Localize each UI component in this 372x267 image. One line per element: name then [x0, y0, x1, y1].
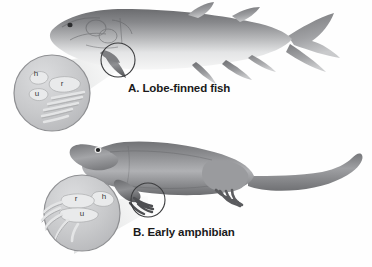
inset-a-label-radius: r — [61, 79, 64, 88]
inset-b-label-radius: r — [75, 194, 78, 203]
inset-b-label-ulna: u — [80, 209, 84, 218]
inset-a-label-ulna: u — [35, 89, 39, 98]
fish-eye — [67, 23, 72, 27]
fish-anal-fin — [248, 55, 276, 72]
amphibian-tail — [248, 154, 363, 191]
amphibian-pupil — [96, 148, 100, 152]
caption-lobe-finned-fish: A. Lobe-finned fish — [128, 82, 230, 94]
bone-humerus-a — [30, 72, 48, 85]
caption-early-amphibian: B. Early amphibian — [133, 226, 235, 238]
figure-container: h r u — [0, 0, 372, 267]
inset-b-label-humerus: h — [102, 192, 106, 201]
bone-radius-a — [49, 77, 80, 93]
amphibian-hind-foot — [216, 190, 242, 206]
panel-a-lobe-finned-fish: h r u — [14, 2, 340, 131]
bone-radius-b — [61, 194, 94, 208]
fish-pelvic-fin-posterior — [222, 60, 252, 80]
inset-a-label-humerus: h — [34, 69, 38, 78]
